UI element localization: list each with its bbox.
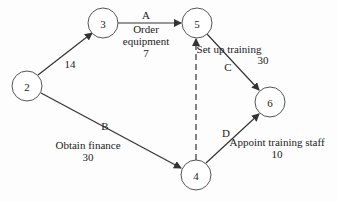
diagram-svg: 2 3 5 6 4 14 A Order equipment 7 Set up … [0,0,337,202]
network-diagram: 2 3 5 6 4 14 A Order equipment 7 Set up … [0,0,337,202]
edge-A-letter: A [142,9,150,21]
edge-C-letter: C [224,61,231,73]
edge-C-name: Set up training [197,43,262,55]
svg-text:5: 5 [194,18,200,30]
edge-C-duration: 30 [258,54,270,66]
node-3: 3 [88,8,118,38]
edge-2-3-duration: 14 [65,58,77,70]
node-4: 4 [181,160,211,190]
edge-A-duration: 7 [143,47,149,59]
svg-text:6: 6 [267,97,273,109]
svg-text:4: 4 [193,170,199,182]
edge-D-duration: 10 [272,148,284,160]
edge-A-name-2: equipment [123,35,169,47]
node-5: 5 [182,8,212,38]
edge-B-name: Obtain finance [55,139,120,151]
node-6: 6 [255,87,285,117]
svg-text:3: 3 [100,18,106,30]
edge-B-duration: 30 [83,151,95,163]
node-2: 2 [12,71,42,101]
edge-2-4-B [41,93,181,168]
edge-B-letter: B [101,120,108,132]
svg-text:2: 2 [24,81,30,93]
edge-A-name-1: Order [133,23,159,35]
edge-D-name: Appoint training staff [229,136,324,148]
